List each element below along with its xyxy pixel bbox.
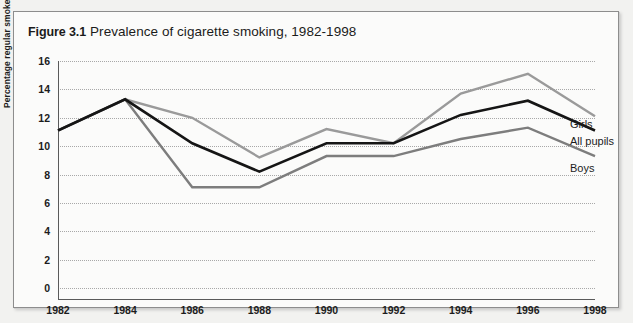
x-axis-tick-label: 1982 — [46, 304, 69, 316]
plot-wrapper: Percentage regular smokers 0246810121416… — [14, 12, 620, 309]
y-axis-tick-label: 16 — [38, 55, 50, 67]
y-axis-tick-labels: 0246810121416 — [28, 61, 50, 288]
gridline — [58, 288, 595, 289]
y-axis-tick-label: 8 — [44, 169, 50, 181]
y-axis-tick-label: 12 — [38, 112, 50, 124]
figure-container: Figure 3.1Prevalence of cigarette smokin… — [0, 0, 633, 323]
x-axis-tick-label: 1992 — [382, 304, 405, 316]
series-label-all-pupils: All pupils — [570, 135, 614, 147]
y-axis-title: Percentage regular smokers — [2, 0, 12, 108]
y-axis-tick-label: 0 — [44, 282, 50, 294]
y-axis-tick-label: 4 — [44, 225, 50, 237]
series-label-boys: Boys — [570, 162, 594, 174]
x-axis-tick-labels: 198219841986198819901992199419961998 — [58, 304, 595, 323]
figure-frame: Figure 3.1Prevalence of cigarette smokin… — [13, 11, 619, 308]
x-axis-tick-label: 1996 — [516, 304, 539, 316]
series-line-all-pupils — [58, 99, 595, 171]
x-axis-tick-label: 1994 — [449, 304, 472, 316]
x-axis-tick-label: 1990 — [315, 304, 338, 316]
x-axis-tick-label: 1998 — [583, 304, 606, 316]
y-axis-tick-label: 10 — [38, 140, 50, 152]
y-axis-tick-label: 14 — [38, 83, 50, 95]
x-axis-tick-label: 1984 — [113, 304, 136, 316]
x-axis-tick-label: 1988 — [248, 304, 271, 316]
y-axis-tick-label: 6 — [44, 197, 50, 209]
x-axis-tick-label: 1986 — [181, 304, 204, 316]
series-lines — [58, 61, 595, 288]
x-axis-line — [58, 299, 595, 300]
y-axis-tick-label: 2 — [44, 254, 50, 266]
series-label-girls: Girls — [570, 118, 593, 130]
